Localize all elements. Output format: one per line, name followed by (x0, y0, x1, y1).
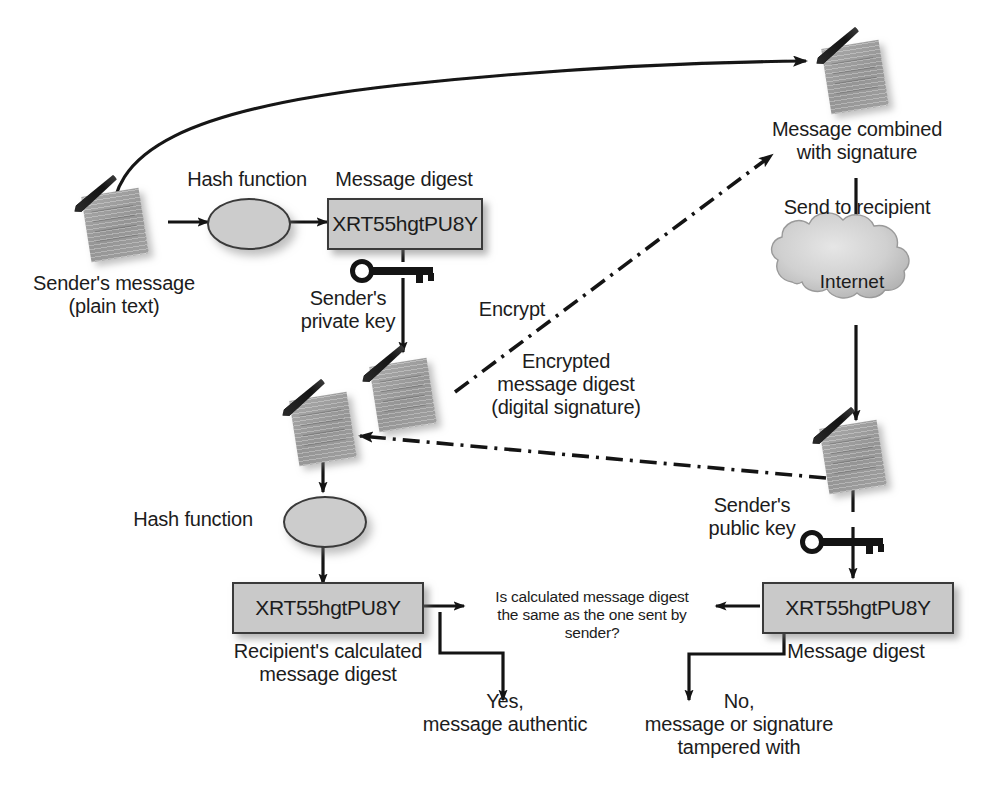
label-decision-question: Is calculated message digest the same as… (470, 588, 714, 642)
digest-box-decrypted-value: XRT55hgtPU8Y (785, 596, 930, 620)
label-message-digest-top: Message digest (325, 168, 483, 191)
label-hash-function-top: Hash function (162, 168, 332, 191)
digest-box-top: XRT55hgtPU8Y (327, 198, 483, 250)
senders-private-key-icon (353, 262, 435, 284)
label-senders-private-key: Sender's private key (278, 287, 418, 333)
label-message-combined: Message combined with signature (744, 118, 970, 164)
digest-box-recipient-calculated: XRT55hgtPU8Y (232, 582, 424, 634)
arrow-decrypt-dashdot (360, 436, 826, 478)
label-yes-branch: Yes, message authentic (380, 690, 630, 736)
hash-function-ellipse-top (207, 198, 291, 250)
label-encrypt: Encrypt (452, 298, 572, 321)
digest-box-top-value: XRT55hgtPU8Y (332, 212, 477, 236)
diagram-canvas: XRT55hgtPU8Y XRT55hgtPU8Y XRT55hgtPU8Y S… (0, 0, 986, 789)
label-senders-public-key: Sender's public key (676, 494, 828, 540)
label-recipients-calculated: Recipient's calculated message digest (204, 640, 452, 686)
digest-box-decrypted: XRT55hgtPU8Y (762, 582, 954, 634)
label-encrypted-message-digest: Encrypted message digest (digital signat… (452, 350, 680, 419)
hash-function-ellipse-bottom (283, 496, 367, 548)
label-no-branch: No, message or signature tampered with (598, 690, 880, 759)
label-senders-message: Sender's message (plain text) (0, 272, 228, 318)
label-message-digest-bottom: Message digest (762, 640, 950, 663)
label-send-to-recipient: Send to recipient (744, 196, 970, 219)
label-hash-function-bottom: Hash function (108, 508, 278, 531)
digest-box-recipient-value: XRT55hgtPU8Y (255, 596, 400, 620)
label-internet: Internet (792, 271, 912, 293)
